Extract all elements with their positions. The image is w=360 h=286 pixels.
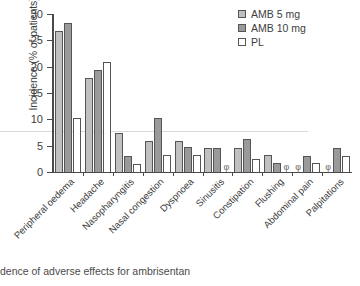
bar bbox=[163, 155, 171, 172]
figure-adverse-effects-bar-chart: Incidence (% of patients) 051015202530 φ… bbox=[0, 0, 360, 286]
bar-group bbox=[143, 14, 173, 172]
y-axis-tick-label: 0 bbox=[37, 166, 43, 178]
bar bbox=[234, 148, 242, 172]
bar bbox=[175, 141, 183, 172]
bar bbox=[273, 163, 281, 172]
bar bbox=[193, 155, 201, 172]
zero-value-marker: φ bbox=[295, 163, 301, 172]
zero-value-marker: φ bbox=[283, 163, 289, 172]
y-axis-tick: 0 bbox=[47, 172, 52, 173]
bar bbox=[154, 118, 162, 172]
bar bbox=[124, 156, 132, 172]
bar bbox=[333, 148, 341, 172]
plot-area: 051015202530 φφφφ bbox=[52, 14, 352, 172]
y-axis-tick: 15 bbox=[47, 93, 52, 94]
y-axis-tick-label: 20 bbox=[31, 61, 43, 73]
y-axis-tick-label: 5 bbox=[37, 140, 43, 152]
bar bbox=[213, 148, 221, 172]
bar bbox=[115, 133, 123, 173]
bar-group bbox=[113, 14, 143, 172]
legend-item: AMB 5 mg bbox=[238, 8, 306, 20]
figure-caption: dence of adverse effects for ambrisentan bbox=[0, 265, 360, 277]
legend-swatch-icon bbox=[238, 38, 246, 46]
legend-swatch-icon bbox=[238, 10, 246, 18]
bar bbox=[184, 147, 192, 172]
bar bbox=[55, 31, 63, 172]
x-axis-labels: Peripheral oedemaHeadacheNasopharyngitis… bbox=[53, 174, 352, 248]
y-axis-tick: 25 bbox=[47, 40, 52, 41]
legend-label: PL bbox=[251, 36, 264, 48]
bar-group bbox=[83, 14, 113, 172]
bar-group: φ bbox=[203, 14, 233, 172]
bar bbox=[204, 148, 212, 172]
legend: AMB 5 mgAMB 10 mgPL bbox=[238, 8, 306, 48]
legend-item: PL bbox=[238, 36, 306, 48]
legend-item: AMB 10 mg bbox=[238, 22, 306, 34]
bar bbox=[64, 23, 72, 172]
x-axis-label-slot: Dyspnoea bbox=[173, 174, 203, 248]
y-axis-tick: 5 bbox=[47, 146, 52, 147]
bar bbox=[94, 70, 102, 172]
zero-value-marker: φ bbox=[224, 163, 230, 172]
y-axis-tick-label: 25 bbox=[31, 34, 43, 46]
bar bbox=[85, 78, 93, 172]
bar bbox=[73, 118, 81, 172]
bar-group bbox=[173, 14, 203, 172]
y-axis-tick: 30 bbox=[47, 14, 52, 15]
x-axis-label-slot: Palpitations bbox=[322, 174, 352, 248]
y-axis-tick-label: 15 bbox=[31, 87, 43, 99]
legend-swatch-icon bbox=[238, 24, 246, 32]
legend-label: AMB 10 mg bbox=[251, 22, 306, 34]
bar bbox=[342, 156, 350, 172]
y-axis-tick: 10 bbox=[47, 119, 52, 120]
y-axis-tick: 20 bbox=[47, 67, 52, 68]
y-axis-tick-label: 10 bbox=[31, 113, 43, 125]
bar bbox=[312, 163, 320, 172]
bar bbox=[252, 159, 260, 172]
y-axis-tick-label: 30 bbox=[31, 8, 43, 20]
zero-value-marker: φ bbox=[325, 163, 331, 172]
bar bbox=[303, 156, 311, 172]
bar bbox=[103, 62, 111, 172]
bar bbox=[243, 139, 251, 172]
legend-label: AMB 5 mg bbox=[251, 8, 300, 20]
bar-group: φ bbox=[322, 14, 352, 172]
bar bbox=[264, 155, 272, 172]
bar bbox=[145, 141, 153, 172]
bar-groups: φφφφ bbox=[53, 14, 352, 172]
x-axis-label-slot: Constipation bbox=[232, 174, 262, 248]
x-axis-label: Peripheral oedema bbox=[12, 176, 77, 241]
bar bbox=[133, 164, 141, 172]
bar-group bbox=[53, 14, 83, 172]
